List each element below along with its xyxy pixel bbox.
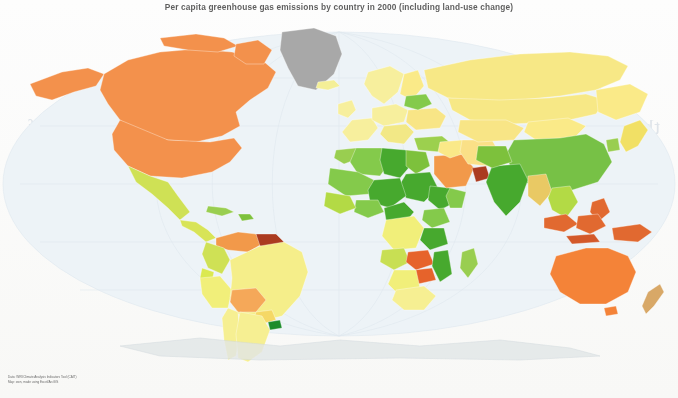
country-russia-far-east bbox=[596, 84, 648, 120]
figure-title: Per capita greenhouse gas emissions by c… bbox=[0, 2, 678, 12]
source-credit-line-2: Map: own, made using Excel/ArcGIS bbox=[8, 380, 86, 385]
country-new-zealand bbox=[642, 284, 664, 314]
map-legend: no data 0 93.9 tonnes CO2e per capita bbox=[0, 372, 678, 394]
country-tasmania bbox=[604, 306, 618, 316]
country-ukraine bbox=[406, 108, 446, 130]
continent-antarctica bbox=[120, 338, 600, 360]
source-credit-line-1: Data: WRI/Climate Analysis Indicators To… bbox=[8, 375, 86, 380]
country-korea bbox=[606, 138, 620, 152]
world-choropleth-map bbox=[0, 16, 678, 366]
country-canada-arctic-islands bbox=[160, 34, 238, 52]
country-indonesia-java bbox=[566, 234, 600, 244]
map-svg bbox=[0, 16, 678, 366]
country-uruguay bbox=[268, 320, 282, 330]
source-credit: Data: WRI/Climate Analysis Indicators To… bbox=[8, 375, 86, 384]
